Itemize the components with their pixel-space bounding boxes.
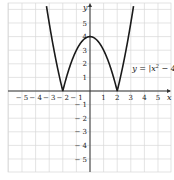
y-tick-label: 5 [83,20,87,28]
x-axis-label: x [167,93,172,102]
y-tick-label: 3 [83,47,87,55]
x-tick-label: 5 [156,94,160,102]
y-axis-arrow-icon [88,3,92,7]
equation-label: y = |x2 − 4| [131,63,174,73]
y-tick-label: − 1 [74,101,87,109]
y-axis-label: y [82,3,88,12]
x-tick-label: 2 [115,94,119,102]
equation-suffix: − 4| [159,64,174,73]
y-tick-label: 2 [83,60,87,68]
x-tick-label: 4 [142,94,147,102]
y-tick-label: 1 [83,74,87,82]
graph-canvas: − 5− 4− 3− 2− 112345− 5− 4− 3− 2− 112345… [0,0,174,180]
equation-prefix: y = |x [131,64,156,73]
x-tick-label: 3 [129,94,133,102]
x-tick-label: − 3 [43,94,56,102]
axes [8,3,171,172]
x-tick-label: − 2 [57,94,70,102]
x-tick-label: − 4 [29,94,42,102]
y-tick-label: − 2 [74,115,87,123]
x-tick-label: − 5 [16,94,29,102]
y-tick-label: − 3 [74,128,87,136]
x-tick-label: 1 [101,94,105,102]
y-tick-label: − 4 [74,142,87,150]
y-tick-label: − 5 [74,156,87,164]
